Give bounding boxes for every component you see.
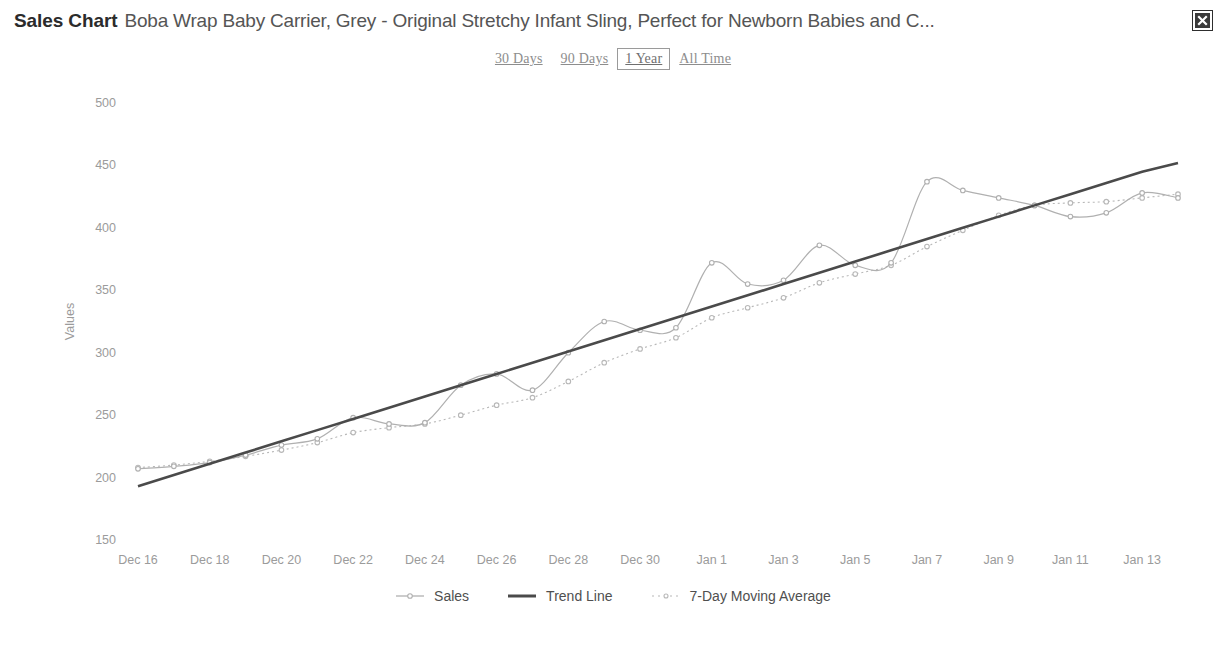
data-point-7-day-moving-average	[279, 448, 284, 453]
data-point-7-day-moving-average	[817, 280, 822, 285]
y-axis-tick-label: 250	[95, 408, 116, 422]
data-point-sales	[674, 325, 679, 330]
series-line-trend-line	[138, 163, 1178, 486]
data-point-7-day-moving-average	[781, 295, 786, 300]
data-point-7-day-moving-average	[1140, 196, 1145, 201]
y-axis-tick-label: 350	[95, 283, 116, 297]
data-point-sales	[279, 443, 284, 448]
x-axis-tick-label: Dec 26	[477, 553, 517, 567]
legend-item-trend-line[interactable]: Trend Line	[507, 588, 612, 604]
data-point-sales	[709, 261, 714, 266]
legend-swatch-sales	[395, 590, 425, 602]
data-point-sales	[996, 196, 1001, 201]
x-axis-tick-label: Jan 3	[768, 553, 799, 567]
legend-swatch-marker	[664, 594, 668, 598]
y-axis-tick-label: 450	[95, 158, 116, 172]
data-point-sales	[530, 388, 535, 393]
data-point-7-day-moving-average	[638, 347, 643, 352]
data-point-sales	[172, 464, 177, 469]
legend-label-trend-line: Trend Line	[546, 588, 612, 604]
product-name: Boba Wrap Baby Carrier, Grey - Original …	[124, 10, 934, 32]
data-point-sales	[1140, 191, 1145, 196]
panel-header: Sales Chart Boba Wrap Baby Carrier, Grey…	[0, 0, 1226, 42]
x-axis-tick-label: Jan 11	[1052, 553, 1089, 567]
y-axis-tick-label: 200	[95, 471, 116, 485]
data-point-7-day-moving-average	[1104, 199, 1109, 204]
data-point-7-day-moving-average	[853, 272, 858, 277]
data-point-sales	[745, 282, 750, 287]
legend-swatch-trend-line	[507, 590, 537, 602]
sales-chart-panel: Sales Chart Boba Wrap Baby Carrier, Grey…	[0, 0, 1226, 657]
x-axis-tick-label: Dec 24	[405, 553, 445, 567]
data-point-sales	[961, 188, 966, 193]
x-axis-tick-label: Jan 7	[912, 553, 943, 567]
y-axis-title: Values	[63, 303, 77, 340]
legend-label-7-day-moving-average: 7-Day Moving Average	[690, 588, 831, 604]
legend-item-sales[interactable]: Sales	[395, 588, 469, 604]
y-axis-tick-label: 500	[95, 96, 116, 110]
data-point-sales	[925, 179, 930, 184]
data-point-7-day-moving-average	[1068, 201, 1073, 206]
data-point-7-day-moving-average	[602, 360, 607, 365]
data-point-7-day-moving-average	[351, 430, 356, 435]
data-point-sales	[602, 319, 607, 324]
range-tab-group: 30 Days90 Days1 YearAll Time	[0, 48, 1226, 70]
x-axis-tick-label: Dec 20	[262, 553, 302, 567]
data-point-sales	[889, 261, 894, 266]
data-point-7-day-moving-average	[745, 305, 750, 310]
y-axis-tick-label: 300	[95, 346, 116, 360]
range-tab-90-days[interactable]: 90 Days	[552, 48, 618, 70]
x-axis-tick-label: Dec 16	[118, 553, 158, 567]
chart-legend: SalesTrend Line7-Day Moving Average	[0, 588, 1226, 604]
data-point-sales	[853, 263, 858, 268]
x-axis-tick-label: Dec 30	[620, 553, 660, 567]
x-axis-tick-label: Dec 28	[549, 553, 589, 567]
data-point-sales	[136, 467, 141, 472]
x-axis-tick-label: Jan 1	[696, 553, 727, 567]
legend-item-7-day-moving-average[interactable]: 7-Day Moving Average	[651, 588, 831, 604]
y-axis-tick-label: 400	[95, 221, 116, 235]
range-tab-all-time[interactable]: All Time	[670, 48, 740, 70]
page-title: Sales Chart	[14, 10, 117, 32]
data-point-sales	[387, 422, 392, 427]
legend-label-sales: Sales	[434, 588, 469, 604]
data-point-7-day-moving-average	[709, 315, 714, 320]
x-axis-tick-label: Dec 18	[190, 553, 230, 567]
data-point-sales	[315, 437, 320, 442]
data-point-7-day-moving-average	[494, 403, 499, 408]
x-axis-tick-label: Dec 22	[333, 553, 373, 567]
x-axis-tick-label: Jan 5	[840, 553, 871, 567]
range-tab-1-year[interactable]: 1 Year	[617, 48, 670, 70]
data-point-sales	[817, 243, 822, 248]
data-point-7-day-moving-average	[925, 244, 930, 249]
x-axis-tick-label: Jan 9	[983, 553, 1014, 567]
data-point-sales	[1104, 211, 1109, 216]
data-point-sales	[1176, 196, 1181, 201]
chart-area: 150200250300350400450500ValuesDec 16Dec …	[0, 80, 1226, 580]
data-point-sales	[423, 420, 428, 425]
close-icon[interactable]	[1193, 11, 1212, 30]
series-line-7-day-moving-average	[138, 194, 1178, 467]
x-axis-tick-label: Jan 13	[1123, 553, 1161, 567]
data-point-7-day-moving-average	[530, 395, 535, 400]
data-point-7-day-moving-average	[566, 379, 571, 384]
y-axis-tick-label: 150	[95, 533, 116, 547]
legend-swatch-7-day-moving-average	[651, 590, 681, 602]
data-point-sales	[781, 278, 786, 283]
data-point-7-day-moving-average	[674, 335, 679, 340]
data-point-sales	[1068, 214, 1073, 219]
range-tab-30-days[interactable]: 30 Days	[486, 48, 552, 70]
legend-swatch-marker	[408, 594, 413, 599]
data-point-7-day-moving-average	[458, 413, 463, 418]
sales-line-chart: 150200250300350400450500ValuesDec 16Dec …	[0, 80, 1226, 580]
